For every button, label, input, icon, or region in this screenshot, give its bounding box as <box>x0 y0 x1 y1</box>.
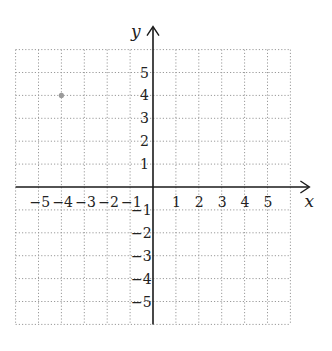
y-tick-label: −1 <box>131 202 152 218</box>
x-tick-label: −4 <box>52 194 73 210</box>
y-tick-label: −4 <box>131 271 152 287</box>
y-axis-label: y <box>130 21 141 41</box>
x-tick-label: 5 <box>264 194 273 210</box>
x-tick-label: −2 <box>98 194 119 210</box>
x-tick-label: 2 <box>195 194 204 210</box>
x-tick-label: 3 <box>218 194 227 210</box>
y-tick-label: −2 <box>131 225 152 241</box>
x-tick-label: 1 <box>172 194 181 210</box>
y-tick-label: −5 <box>131 294 152 310</box>
y-tick-label: 2 <box>140 133 149 149</box>
x-tick-label: −3 <box>75 194 96 210</box>
y-tick-label: 1 <box>140 156 149 172</box>
y-tick-label: −3 <box>131 248 152 264</box>
y-tick-label: 3 <box>140 110 149 126</box>
y-tick-label: 5 <box>140 65 149 81</box>
data-point <box>59 93 64 98</box>
x-axis-label: x <box>304 191 314 211</box>
coordinate-plane: xy−5−4−3−2−11234554321−1−2−3−4−5 <box>0 0 332 351</box>
x-tick-label: 4 <box>241 194 250 210</box>
y-tick-label: 4 <box>140 87 149 103</box>
x-tick-label: −5 <box>30 194 51 210</box>
